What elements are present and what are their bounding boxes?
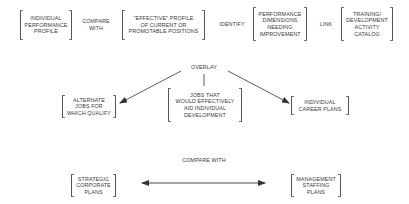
- box-text: MANAGEMENT STAFFING PLANS: [293, 176, 339, 196]
- bottom-compare-with-label: COMPARE WITH: [176, 157, 232, 164]
- box-text: PERFORMANCE DIMENSIONS NEEDING IMPROVEME…: [255, 11, 304, 37]
- performance-dimensions-box: PERFORMANCE DIMENSIONS NEEDING IMPROVEME…: [253, 7, 307, 41]
- jobs-aid-development-box: JOBS THAT WOULD EFFECTIVELY AID INDIVIDU…: [168, 88, 242, 122]
- alternate-jobs-box: ALTERNATE JOBS FOR WHICH QUALIFY: [62, 95, 116, 118]
- effective-profile-box: "EFFECTIVE" PROFILE OF CURRENT OR PROMOT…: [122, 10, 205, 40]
- strategic-corporate-plans-box: STRATEGIC CORPORATE PLANS: [71, 174, 116, 197]
- box-text: INDIVIDUAL PERFORMANCE PROFILE: [21, 15, 70, 35]
- box-text: TRAINING/ DEVELOPMENT ACTIVITY CATALOG: [343, 11, 391, 37]
- individual-performance-profile-box: INDIVIDUAL PERFORMANCE PROFILE: [20, 10, 72, 40]
- training-development-catalog-box: TRAINING/ DEVELOPMENT ACTIVITY CATALOG: [341, 7, 393, 41]
- box-text: INDIVIDUAL CAREER PLANS: [296, 99, 345, 112]
- compare-with-label: COMPARE WITH: [78, 18, 114, 31]
- individual-career-plans-box: INDIVIDUAL CAREER PLANS: [291, 96, 349, 115]
- box-text: JOBS THAT WOULD EFFECTIVELY AID INDIVIDU…: [172, 92, 237, 118]
- management-staffing-plans-box: MANAGEMENT STAFFING PLANS: [291, 174, 341, 197]
- box-text: "EFFECTIVE" PROFILE OF CURRENT OR PROMOT…: [126, 15, 202, 35]
- box-text: ALTERNATE JOBS FOR WHICH QUALIFY: [64, 97, 114, 117]
- box-text: STRATEGIC CORPORATE PLANS: [73, 176, 114, 196]
- link-label: LINK: [314, 21, 338, 28]
- identify-label: IDENTIFY: [214, 21, 250, 28]
- overlay-label: OVERLAY: [184, 64, 224, 71]
